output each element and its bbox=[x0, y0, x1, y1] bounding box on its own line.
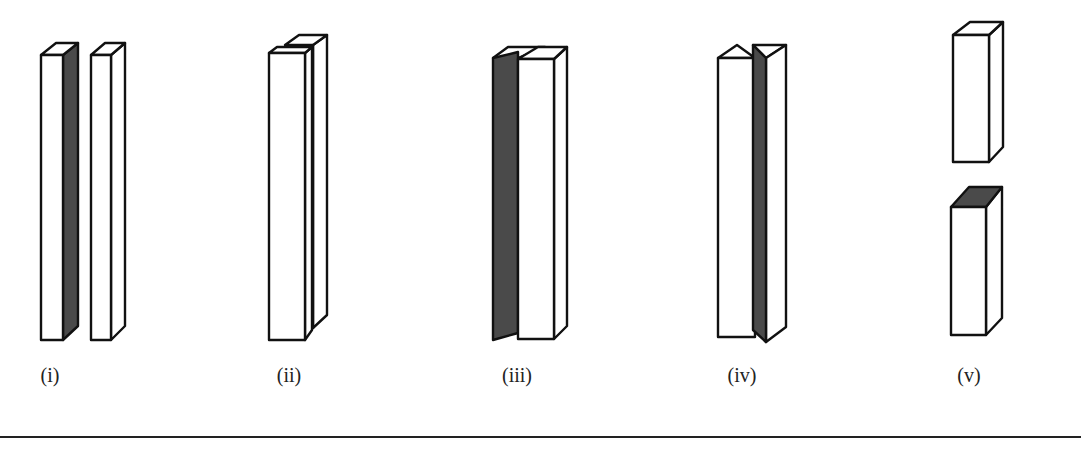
prism-white-front bbox=[518, 47, 567, 339]
figure-canvas bbox=[0, 0, 1081, 449]
panel-iii-figure bbox=[493, 47, 567, 340]
panel-v-figure bbox=[951, 22, 1003, 335]
bottom-rule-divider bbox=[0, 436, 1081, 438]
panel-iii-label: (iii) bbox=[502, 364, 532, 387]
panel-iv-label: (iv) bbox=[728, 364, 757, 387]
panel-i-label: (i) bbox=[41, 364, 60, 387]
panel-iv-figure bbox=[718, 45, 786, 342]
prism-front bbox=[269, 47, 312, 340]
panel-ii-figure bbox=[269, 35, 327, 340]
prism-left-shaded-side bbox=[41, 43, 78, 340]
panel-ii-label: (ii) bbox=[277, 364, 301, 387]
panel-i-figure bbox=[41, 43, 125, 340]
prism-triangular bbox=[753, 45, 786, 342]
prism-right-white bbox=[91, 43, 125, 340]
block-upper bbox=[953, 22, 1003, 162]
block-lower-shaded-top bbox=[951, 187, 1002, 335]
prism-pointed-top bbox=[718, 45, 755, 337]
panel-v-label: (v) bbox=[957, 364, 980, 387]
